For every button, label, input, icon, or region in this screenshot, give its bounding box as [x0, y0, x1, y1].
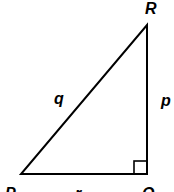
- side-label-r: r: [75, 185, 82, 192]
- right-angle-marker: [134, 161, 147, 174]
- vertex-label-r: R: [145, 0, 157, 17]
- vertex-label-q: Q: [142, 185, 155, 192]
- vertex-label-p: P: [5, 185, 16, 192]
- side-label-p: p: [160, 92, 171, 109]
- triangle-pqr: [21, 25, 147, 174]
- triangle-diagram: R q p P r Q: [0, 0, 174, 192]
- side-label-q: q: [54, 90, 64, 107]
